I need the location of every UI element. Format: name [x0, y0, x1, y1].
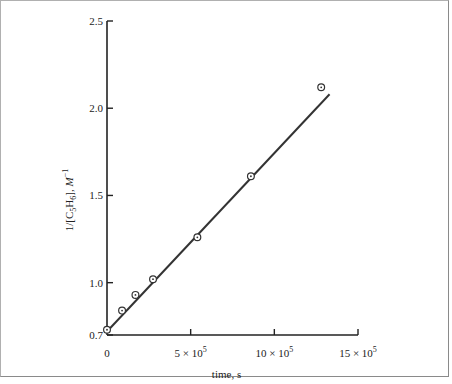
x-axis-title: time, s — [212, 368, 241, 380]
fit-line — [107, 94, 330, 331]
data-point-center — [196, 236, 198, 238]
y-tick-label: 1.5 — [89, 189, 103, 201]
y-tick-label: 2.0 — [89, 102, 103, 114]
y-tick-label: 2.5 — [89, 15, 103, 27]
y-tick-label: 0.7 — [89, 329, 103, 341]
x-tick-label: 0 — [104, 347, 110, 359]
data-point-center — [250, 175, 252, 177]
data-point-center — [152, 278, 154, 280]
x-tick-label: 15 × 105 — [339, 345, 377, 359]
scatter-chart: 0.71.01.52.02.505 × 10510 × 10515 × 105t… — [0, 0, 452, 384]
x-tick-label: 5 × 105 — [175, 345, 207, 359]
y-axis-title: 1/[C5H6], M−1 — [61, 169, 78, 231]
x-tick-label: 10 × 105 — [255, 345, 293, 359]
data-point-center — [106, 329, 108, 331]
y-tick-label: 1.0 — [89, 277, 103, 289]
data-point-center — [320, 86, 322, 88]
data-point-center — [135, 294, 137, 296]
data-point-center — [121, 310, 123, 312]
